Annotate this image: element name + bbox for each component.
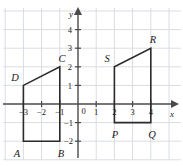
origin-label: 0 (82, 106, 86, 116)
vertex-label-d: D (10, 72, 19, 83)
x-tick-label-minus2: −2 (37, 107, 46, 117)
x-tick-label-minus3: −3 (19, 107, 28, 117)
x-axis-arrow-icon (171, 100, 179, 108)
vertex-label-r: R (149, 34, 157, 45)
vertex-label-s: S (104, 53, 110, 64)
y-axis-label: y (68, 9, 73, 19)
y-tick-label-1: 1 (68, 81, 72, 91)
x-tick-label-3: 3 (130, 107, 134, 117)
vertex-label-q: Q (148, 129, 156, 140)
x-tick-label-1: 1 (94, 107, 98, 117)
coordinate-plane-figure: −3 −2 −1 1 2 3 4 4 3 2 1 −1 −2 0 x y A B… (0, 0, 183, 166)
vertex-label-p: P (111, 129, 119, 140)
y-tick-label-minus1: −1 (64, 118, 73, 128)
y-tick-label-3: 3 (68, 43, 72, 53)
x-tick-label-minus1: −1 (55, 107, 64, 117)
x-axis-label: x (169, 109, 174, 119)
vertex-label-b: B (58, 148, 65, 159)
x-tick-label-2: 2 (112, 107, 116, 117)
x-tick-label-4: 4 (149, 107, 154, 117)
y-tick-label-2: 2 (68, 62, 72, 72)
vertex-label-c: C (58, 53, 66, 64)
y-tick-label-minus2: −2 (64, 136, 73, 146)
vertex-label-a: A (13, 148, 21, 159)
